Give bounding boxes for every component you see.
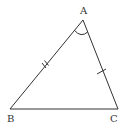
double-tick-ab	[42, 61, 49, 69]
triangle-diagram: A B C	[0, 0, 125, 131]
vertex-label-c: C	[110, 113, 118, 124]
vertex-label-a: A	[79, 5, 88, 16]
angle-a-arc	[75, 30, 88, 34]
side-ab	[10, 20, 83, 109]
side-ac	[83, 20, 118, 109]
single-tick-ac	[97, 69, 106, 74]
vertex-label-b: B	[7, 113, 14, 124]
